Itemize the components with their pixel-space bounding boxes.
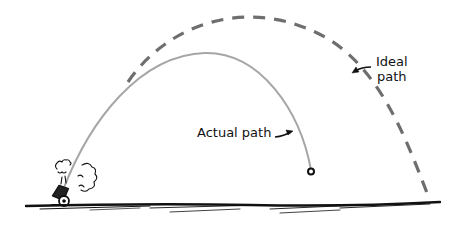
trajectory-diagram — [0, 0, 467, 227]
ideal-path — [128, 17, 429, 198]
ideal-path-label-line1: Ideal — [376, 54, 408, 69]
actual-path-label: Actual path — [197, 125, 271, 140]
impact-point-icon — [308, 169, 314, 175]
ideal-path-label-line2: path — [376, 69, 408, 84]
ground-line — [26, 202, 440, 213]
cannon-icon — [52, 184, 70, 206]
ideal-path-arrow-icon — [352, 67, 371, 73]
ideal-path-label: Ideal path — [376, 54, 408, 84]
actual-path — [63, 53, 311, 190]
actual-path-arrow-icon — [275, 130, 293, 137]
